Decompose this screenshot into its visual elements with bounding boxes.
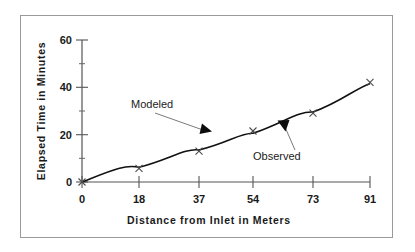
y-tick-label-20: 20 xyxy=(60,129,72,141)
chart-plot-area: 60 40 20 0 0 18 37 54 73 91 Distance fro… xyxy=(0,0,415,252)
y-tick-label-60: 60 xyxy=(60,34,72,46)
observed-marker-37 xyxy=(196,148,203,155)
observed-marker-73 xyxy=(310,110,317,117)
y-tick-label-0: 0 xyxy=(66,176,72,188)
observed-arrowhead-icon xyxy=(278,120,290,132)
x-tick-label-91: 91 xyxy=(364,193,376,205)
modeled-curve xyxy=(82,84,370,182)
observed-leader-line xyxy=(285,127,295,150)
x-axis-title: Distance from Inlet in Meters xyxy=(127,214,291,226)
annotation-modeled: Modeled xyxy=(131,98,173,110)
y-tick-label-40: 40 xyxy=(60,81,72,93)
modeled-arrowhead-icon xyxy=(200,124,213,135)
x-tick-label-54: 54 xyxy=(247,193,260,205)
x-tick-label-73: 73 xyxy=(307,193,319,205)
observed-marker-91 xyxy=(367,79,374,86)
y-axis-title: Elapsed Time in Minutes xyxy=(35,42,47,180)
chart-figure: 60 40 20 0 0 18 37 54 73 91 Distance fro… xyxy=(0,0,415,252)
x-tick-label-18: 18 xyxy=(133,193,145,205)
observed-marker-18 xyxy=(136,165,143,172)
x-tick-label-37: 37 xyxy=(193,193,205,205)
annotation-observed: Observed xyxy=(253,150,301,162)
x-tick-label-0: 0 xyxy=(79,193,85,205)
modeled-leader-line xyxy=(155,113,203,130)
